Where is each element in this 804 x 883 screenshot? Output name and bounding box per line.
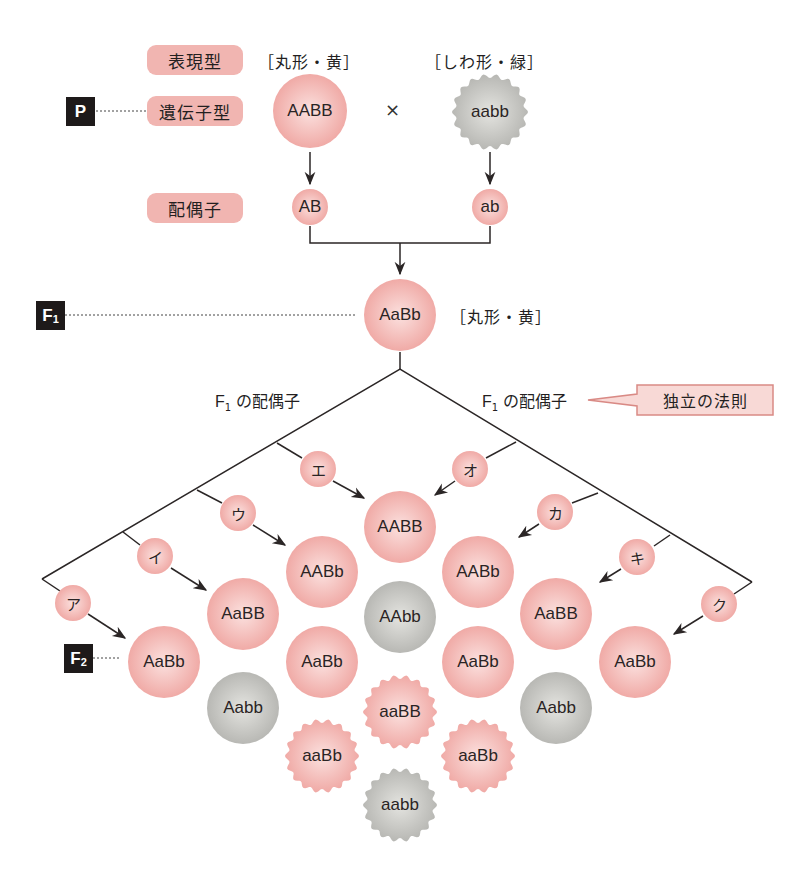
blank-gamete-u: ウ: [220, 495, 256, 531]
f2-genotype: AABB: [364, 491, 436, 563]
left-parent-genotype: AABB: [273, 74, 347, 148]
arrow-a-to-f2: [88, 614, 125, 638]
arrow-e-to-f2: [333, 481, 364, 498]
dihybrid-cross-diagram: 表現型 遺伝子型 配偶子 P F1 F2 ［丸形・黄］ ［しわ形・緑］ × AA…: [0, 0, 804, 883]
f2-genotype: aaBb: [442, 720, 514, 792]
f2-genotype: Aabb: [207, 672, 279, 744]
right-parent-phenotype: ［しわ形・緑］: [425, 49, 544, 73]
generation-f1-badge: F1: [36, 301, 65, 330]
f2-genotype: AaBB: [207, 578, 279, 650]
generation-f2-badge: F2: [64, 644, 93, 673]
f2-genotype: AABb: [442, 536, 514, 608]
blank-gamete-a: ア: [55, 585, 91, 621]
f1-gamete-label-right: F1 の配偶子: [482, 388, 567, 413]
right-parent-genotype: aabb: [453, 75, 527, 149]
blank-gamete-ki: キ: [619, 539, 655, 575]
arrow-i-to-f2: [171, 568, 206, 590]
gamete-label: 配偶子: [147, 193, 243, 223]
f1-phenotype: ［丸形・黄］: [450, 304, 552, 328]
f1-gamete-label-left: F1 の配偶子: [215, 388, 300, 413]
f2-genotype: AaBB: [520, 578, 592, 650]
f1-genotype: AaBb: [364, 279, 436, 351]
blank-gamete-i: イ: [137, 538, 173, 574]
f2-genotype: Aabb: [520, 672, 592, 744]
genotype-label: 遺伝子型: [147, 96, 243, 126]
gamete-join-bracket: [310, 226, 490, 243]
arrow-u-to-f2: [253, 525, 285, 545]
right-gamete: ab: [472, 189, 508, 225]
blank-gamete-e: エ: [300, 451, 336, 487]
phenotype-label: 表現型: [147, 45, 243, 75]
generation-p-badge: P: [66, 97, 95, 126]
arrow-ka-to-f2: [519, 524, 539, 537]
diagram-lines-and-circles: [0, 0, 804, 883]
arrow-ki-to-f2: [600, 569, 621, 582]
left-parent-phenotype: ［丸形・黄］: [258, 49, 360, 73]
f2-genotype: AaBb: [128, 626, 200, 698]
f2-genotype: AaBb: [286, 626, 358, 698]
callout-independent-assortment: 独立の法則: [637, 385, 773, 415]
f2-genotype: aaBB: [364, 676, 436, 748]
f2-genotype: aaBb: [286, 720, 358, 792]
f2-genotype: AABb: [286, 536, 358, 608]
f2-genotype: AAbb: [364, 581, 436, 653]
f2-genotype: AaBb: [599, 626, 671, 698]
f2-genotype: aabb: [364, 769, 436, 841]
blank-gamete-ku: ク: [701, 586, 737, 622]
blank-gamete-ka: カ: [537, 494, 573, 530]
f2-genotype: AaBb: [442, 626, 514, 698]
left-gamete: AB: [292, 189, 328, 225]
arrow-ku-to-f2: [674, 616, 703, 634]
cross-symbol: ×: [385, 99, 400, 120]
blank-gamete-o: オ: [452, 451, 488, 487]
